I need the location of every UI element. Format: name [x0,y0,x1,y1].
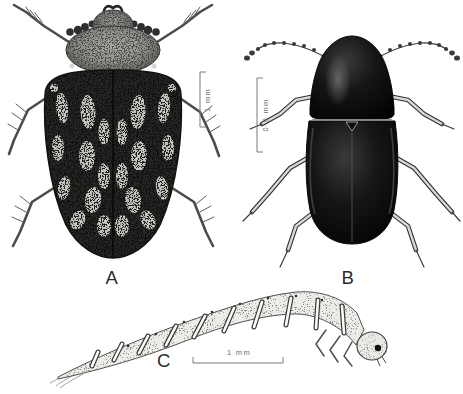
beetle-b-body [306,36,398,244]
beetle-a-drawing [8,5,220,258]
larva-eye [375,345,381,351]
panel-label-c: C [157,350,171,371]
scale-bar-a-label: 1 mm [203,88,212,112]
beetle-b-drawing [243,36,460,267]
scale-bar-c-label: 1 mm [227,348,251,357]
scale-bar-b-label: 0·5 mm [261,98,270,131]
scale-bar-c: 1 mm [193,348,283,363]
larva-c-drawing [50,292,387,388]
scale-bar-b: 0·5 mm [257,78,270,152]
panel-label-a: A [106,267,119,288]
panel-label-b: B [342,267,355,288]
beetle-plate-illustration: 1 mm A [0,0,463,394]
larva-head [357,332,387,366]
figure-plate: 1 mm A [0,0,463,394]
beetle-b-head-pronotum [310,36,394,119]
beetle-a-pronotum [66,26,160,74]
beetle-a-elytra [45,70,182,258]
